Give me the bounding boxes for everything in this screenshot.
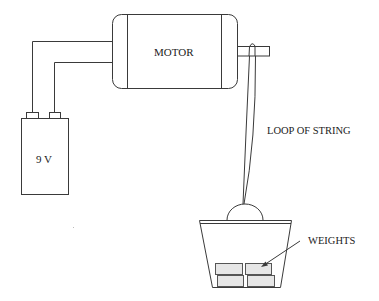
motor-label: MOTOR bbox=[154, 46, 194, 58]
motor-lifting-diagram: MOTOR 9 V LOOP OF STRING WEIGHTS bbox=[0, 0, 379, 301]
string-loop bbox=[249, 44, 255, 56]
weights-pointer-line bbox=[264, 241, 300, 265]
wire-2 bbox=[55, 63, 113, 113]
battery-label: 9 V bbox=[36, 153, 52, 165]
wire-1 bbox=[33, 42, 113, 113]
string-left bbox=[243, 56, 250, 204]
basket bbox=[200, 221, 292, 288]
motor-shaft bbox=[238, 47, 270, 57]
weight-1 bbox=[216, 264, 243, 275]
string-right bbox=[244, 56, 256, 204]
weight-3 bbox=[218, 276, 244, 287]
string-label: LOOP OF STRING bbox=[267, 125, 351, 136]
basket-dome bbox=[227, 204, 263, 220]
speck bbox=[73, 227, 74, 228]
battery-terminal-positive bbox=[27, 113, 39, 119]
weight-4 bbox=[248, 276, 275, 287]
weights-label: WEIGHTS bbox=[308, 235, 355, 246]
battery-terminal-negative bbox=[50, 113, 61, 119]
